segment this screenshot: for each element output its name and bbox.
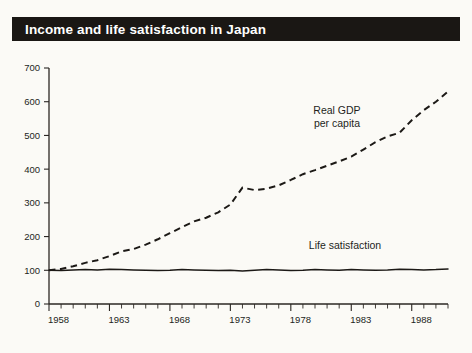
series-label: Life satisfaction <box>309 239 382 251</box>
line-chart-svg: 0100200300400500600700 19581963196819731… <box>0 48 472 353</box>
x-tick-label: 1973 <box>229 314 250 325</box>
series-label: per capita <box>314 117 360 129</box>
y-tick-label: 400 <box>24 164 40 175</box>
chart-plot-area: 0100200300400500600700 19581963196819731… <box>0 48 472 353</box>
y-tick-label: 0 <box>35 298 40 309</box>
series-annotations: Real GDPper capitaLife satisfaction <box>309 104 382 251</box>
x-tick-label: 1958 <box>48 314 69 325</box>
x-tick-label: 1978 <box>290 314 311 325</box>
y-axis-ticks <box>44 68 49 304</box>
chart-page: Income and life satisfaction in Japan 01… <box>0 0 472 353</box>
series-label: Real GDP <box>313 104 360 116</box>
page-title: Income and life satisfaction in Japan <box>12 22 266 37</box>
y-tick-label: 200 <box>24 231 40 242</box>
x-tick-label: 1983 <box>350 314 371 325</box>
x-axis-tick-labels: 1958196319681973197819831988 <box>48 314 432 325</box>
y-tick-label: 600 <box>24 96 40 107</box>
y-tick-label: 300 <box>24 197 40 208</box>
chart-title-bar: Income and life satisfaction in Japan <box>12 17 460 41</box>
y-tick-label: 700 <box>24 62 40 73</box>
y-tick-label: 500 <box>24 130 40 141</box>
y-axis-tick-labels: 0100200300400500600700 <box>24 62 40 309</box>
x-axis-ticks <box>49 304 448 311</box>
series-life-satisfaction <box>49 269 448 271</box>
x-tick-label: 1988 <box>411 314 432 325</box>
y-tick-label: 100 <box>24 265 40 276</box>
x-tick-label: 1963 <box>108 314 129 325</box>
x-tick-label: 1968 <box>169 314 190 325</box>
series-real-gdp-per-capita <box>49 92 448 271</box>
